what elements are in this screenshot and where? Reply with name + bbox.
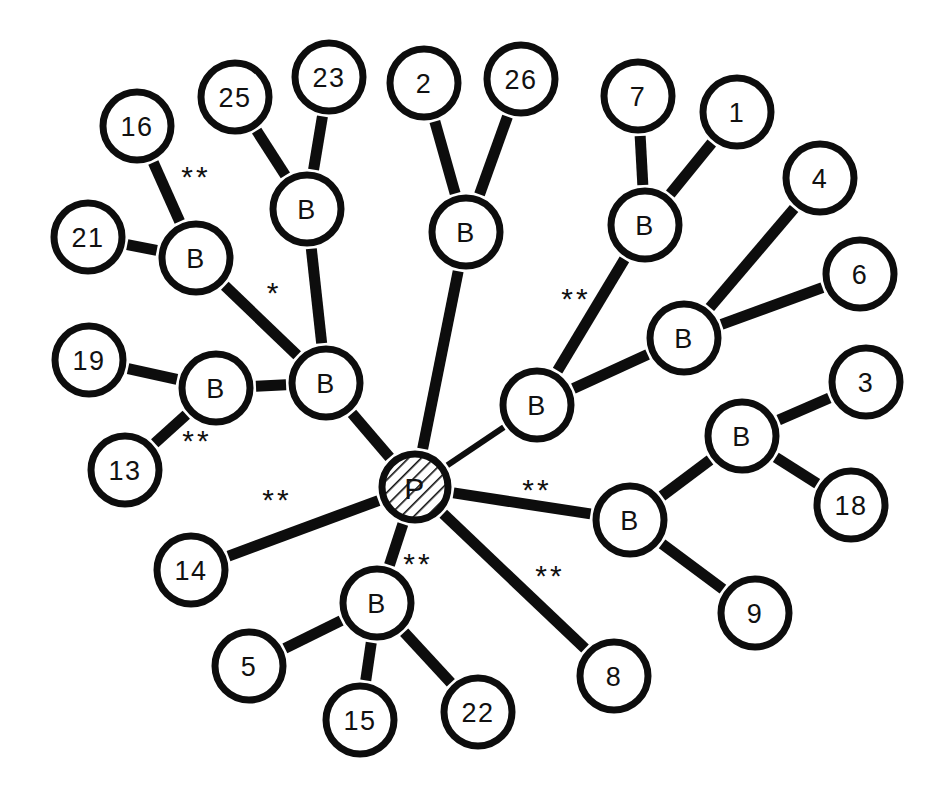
- node-N21[interactable]: 21: [54, 203, 122, 271]
- node-N8[interactable]: 8: [580, 642, 648, 710]
- node-N4[interactable]: 4: [786, 144, 854, 212]
- node-label-B3: B: [206, 374, 226, 404]
- edge-mark-N13-B3: **: [182, 424, 211, 457]
- node-N26[interactable]: 26: [487, 45, 555, 113]
- node-label-B4: B: [316, 369, 336, 399]
- node-label-N13: 13: [108, 456, 141, 486]
- node-N5[interactable]: 5: [215, 632, 283, 700]
- node-label-N4: 4: [812, 164, 829, 194]
- node-N7[interactable]: 7: [604, 62, 672, 130]
- node-N9[interactable]: 9: [721, 579, 789, 647]
- node-N6[interactable]: 6: [826, 240, 894, 308]
- node-label-B11: B: [367, 589, 387, 619]
- edge-mark-P-N14: **: [262, 483, 291, 516]
- edge-B8-P: [447, 427, 503, 465]
- node-B1[interactable]: B: [162, 224, 230, 292]
- edge-B1-B4: [225, 286, 297, 356]
- edge-N1-B6: [670, 143, 711, 194]
- edge-N25-B2: [257, 131, 286, 176]
- edge-N19-B3: [128, 369, 177, 380]
- node-N15[interactable]: 15: [326, 686, 394, 754]
- node-N1[interactable]: 1: [703, 78, 771, 146]
- edge-B9-N9: [662, 544, 723, 589]
- edge-N23-B2: [314, 116, 323, 169]
- edge-B10-N18: [776, 457, 817, 483]
- node-B3[interactable]: B: [182, 354, 250, 422]
- node-label-N2: 2: [416, 69, 433, 99]
- node-label-P: P: [404, 472, 426, 505]
- node-label-N18: 18: [834, 491, 867, 521]
- edge-B10-N3: [779, 398, 830, 420]
- node-B10[interactable]: B: [708, 402, 776, 470]
- edge-mark-B1-B4: *: [267, 276, 282, 309]
- node-N22[interactable]: 22: [444, 678, 512, 746]
- node-label-N21: 21: [71, 223, 104, 253]
- node-label-B10: B: [732, 422, 752, 452]
- node-B4[interactable]: B: [292, 349, 360, 417]
- edge-B9-B10: [662, 460, 710, 496]
- edge-P-B11: [389, 524, 402, 565]
- edge-N16-B1: [153, 163, 179, 222]
- node-N16[interactable]: 16: [103, 92, 171, 160]
- node-label-N15: 15: [343, 706, 376, 736]
- node-label-B2: B: [297, 195, 317, 225]
- edge-P-N14: [229, 501, 379, 557]
- node-N18[interactable]: 18: [817, 471, 885, 539]
- node-B5[interactable]: B: [432, 198, 500, 266]
- node-label-B9: B: [620, 506, 640, 536]
- node-label-N5: 5: [241, 652, 258, 682]
- diagram-canvas: PBBBBBBBBBBB1625232267146211913318914515…: [0, 0, 951, 797]
- edge-mark-P-N8: **: [535, 559, 564, 592]
- node-N14[interactable]: 14: [157, 536, 225, 604]
- network-graph: PBBBBBBBBBBB1625232267146211913318914515…: [0, 0, 951, 797]
- node-label-N1: 1: [729, 98, 746, 128]
- node-label-N14: 14: [174, 556, 207, 586]
- edge-mark-B6-B8: **: [561, 282, 590, 315]
- edge-N6-B7: [722, 288, 823, 325]
- edge-B11-N22: [404, 632, 451, 682]
- node-label-N19: 19: [72, 346, 105, 376]
- nodes-layer: PBBBBBBBBBBB1625232267146211913318914515…: [54, 43, 900, 754]
- node-label-N22: 22: [461, 698, 494, 728]
- edge-B11-N5: [285, 621, 341, 649]
- node-label-N3: 3: [858, 368, 875, 398]
- edge-B7-B8: [573, 355, 647, 389]
- node-P[interactable]: P: [382, 454, 448, 520]
- node-N25[interactable]: 25: [201, 63, 269, 131]
- node-N19[interactable]: 19: [55, 326, 123, 394]
- node-B9[interactable]: B: [596, 486, 664, 554]
- node-label-N16: 16: [120, 112, 153, 142]
- node-B6[interactable]: B: [611, 191, 679, 259]
- node-label-B8: B: [527, 391, 547, 421]
- node-N23[interactable]: 23: [295, 43, 363, 111]
- node-label-N7: 7: [630, 82, 647, 112]
- node-label-B5: B: [456, 218, 476, 248]
- edge-B6-B8: [558, 259, 625, 370]
- edge-N2-B5: [435, 121, 455, 193]
- node-N13[interactable]: 13: [91, 436, 159, 504]
- node-label-N25: 25: [218, 83, 251, 113]
- node-B11[interactable]: B: [343, 569, 411, 637]
- node-B2[interactable]: B: [273, 175, 341, 243]
- node-label-N6: 6: [852, 260, 869, 290]
- edge-N4-B7: [710, 208, 794, 307]
- edge-B4-P: [352, 413, 390, 457]
- edge-B5-P: [423, 271, 459, 449]
- edge-N21-B1: [127, 245, 156, 251]
- node-label-N26: 26: [504, 65, 537, 95]
- node-N3[interactable]: 3: [832, 348, 900, 416]
- node-B7[interactable]: B: [650, 304, 718, 372]
- edge-B3-B4: [256, 385, 286, 386]
- edge-N7-B6: [640, 136, 643, 185]
- node-N2[interactable]: 2: [390, 49, 458, 117]
- node-label-N8: 8: [606, 662, 623, 692]
- node-label-B1: B: [186, 244, 206, 274]
- node-label-B6: B: [635, 211, 655, 241]
- node-B8[interactable]: B: [503, 371, 571, 439]
- edge-B2-B4: [311, 249, 321, 343]
- node-label-N23: 23: [312, 63, 345, 93]
- edge-mark-N16-B1: **: [181, 160, 210, 193]
- edge-B11-N15: [366, 643, 371, 681]
- node-label-B7: B: [674, 324, 694, 354]
- edge-mark-P-B11: **: [403, 547, 432, 580]
